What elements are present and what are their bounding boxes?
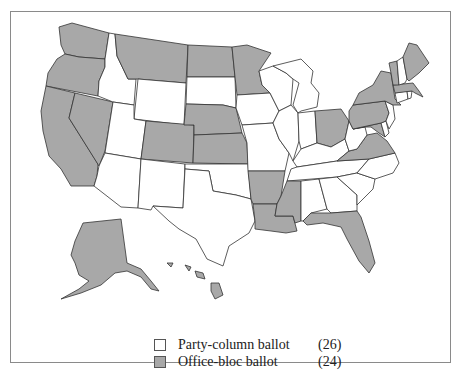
legend-count: (24) [318, 354, 358, 370]
state-ks [193, 133, 248, 164]
state-nm [138, 159, 185, 210]
office-bloc-swatch [154, 356, 166, 368]
us-map [11, 12, 452, 364]
legend-label: Office-bloc ballot [178, 354, 318, 370]
state-ak [61, 219, 159, 299]
map-frame: Party-column ballot (26) Office-bloc bal… [10, 11, 451, 363]
legend-item-office-bloc: Office-bloc ballot (24) [154, 353, 358, 370]
state-wy [134, 79, 186, 125]
state-ri [407, 91, 412, 99]
state-me [403, 43, 429, 81]
legend-label: Party-column ballot [178, 337, 318, 353]
party-column-swatch [154, 339, 166, 351]
state-in [298, 111, 317, 149]
state-hi [167, 263, 223, 299]
legend-count: (26) [318, 337, 358, 353]
state-wa [59, 23, 109, 59]
state-co [141, 121, 194, 163]
state-az [94, 153, 141, 208]
map-legend: Party-column ballot (26) Office-bloc bal… [154, 336, 358, 370]
state-sd [186, 77, 236, 108]
legend-item-party-column: Party-column ballot (26) [154, 336, 358, 353]
state-nd [187, 45, 235, 77]
state-fl [303, 211, 375, 273]
